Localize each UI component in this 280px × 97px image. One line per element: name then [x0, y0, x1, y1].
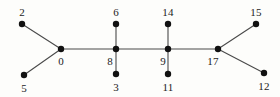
graph-node-12 [261, 70, 267, 76]
graph-node-9 [165, 46, 171, 52]
graph-node-label-2: 2 [19, 7, 25, 18]
graph-edge-17-15 [218, 24, 256, 49]
graph-node-11 [165, 71, 171, 77]
graph-node-label-15: 15 [250, 7, 261, 18]
graph-node-8 [113, 46, 119, 52]
graph-node-label-5: 5 [21, 83, 27, 94]
graph-node-label-8: 8 [107, 56, 113, 67]
graph-node-label-6: 6 [113, 7, 119, 18]
graph-node-label-3: 3 [113, 82, 119, 93]
graph-node-label-17: 17 [207, 56, 218, 67]
graph-node-3 [113, 71, 119, 77]
graph-node-label-0: 0 [58, 56, 64, 67]
graph-node-label-9: 9 [160, 56, 166, 67]
graph-edge-2-0 [22, 24, 61, 49]
graph-node-15 [253, 21, 259, 27]
graph-node-label-11: 11 [163, 82, 174, 93]
graph-node-5 [21, 72, 27, 78]
graph-node-2 [19, 21, 25, 27]
graph-edge-17-12 [218, 49, 264, 73]
graph-edge-5-0 [24, 49, 61, 75]
graph-node-17 [215, 46, 221, 52]
graph-canvas [0, 0, 280, 97]
graph-diagram: 25068314911171512 [0, 0, 280, 97]
graph-node-6 [113, 21, 119, 27]
graph-node-label-14: 14 [162, 7, 173, 18]
graph-node-label-12: 12 [258, 81, 269, 92]
graph-node-14 [165, 21, 171, 27]
graph-node-0 [58, 46, 64, 52]
